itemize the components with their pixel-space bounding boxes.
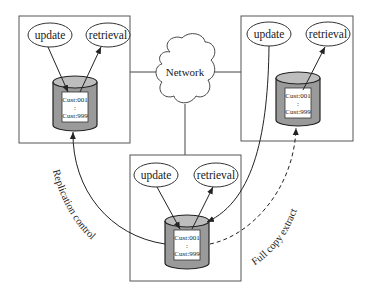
record-ellipsis: : [297,100,299,108]
update-label: update [35,29,66,42]
record-first: Cust:001 [285,92,311,100]
record-last: Cust:999 [285,108,311,116]
record-last: Cust:999 [62,112,88,120]
network-cloud: Network [156,34,215,103]
site-right: update retrieval Cust:001 : Cust:999 [241,16,353,141]
retrieval-label: retrieval [89,29,127,41]
database-cylinder: Cust:001 : Cust:999 [165,215,209,269]
replication-control-label: Replication control [51,168,98,241]
site-left: update retrieval Cust:001 : Cust:999 [19,16,130,143]
network-label: Network [166,66,205,78]
update-label: update [254,28,285,41]
record-first: Cust:001 [62,96,88,104]
site-bottom: update retrieval Cust:001 : Cust:999 [130,155,241,281]
record-first: Cust:001 [174,234,200,242]
retrieval-label: retrieval [309,28,347,40]
record-ellipsis: : [186,242,188,250]
database-cylinder: Cust:001 : Cust:999 [53,76,97,131]
retrieval-label: retrieval [197,169,235,181]
database-cylinder: Cust:001 : Cust:999 [276,72,320,126]
record-last: Cust:999 [174,250,200,258]
record-ellipsis: : [74,104,76,112]
replication-diagram: Network update retrieval Cust:001 : Cust… [0,0,366,298]
full-copy-extract-label: Full copy extract [249,207,299,267]
update-label: update [141,169,172,182]
